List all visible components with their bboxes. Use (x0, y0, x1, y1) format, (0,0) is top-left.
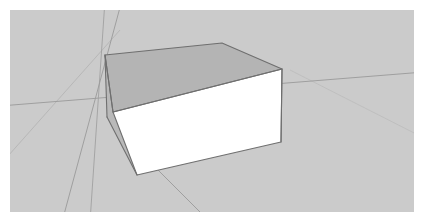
status-measurement-label: Dimensions (0, 0, 1, 1)
scene-svg[interactable] (10, 10, 414, 212)
model-viewport[interactable] (10, 10, 414, 212)
app-root: Untitled Model (0, 0, 424, 223)
status-tool-label: Select (0, 0, 1, 1)
page-title: Untitled Model (0, 21, 1, 22)
